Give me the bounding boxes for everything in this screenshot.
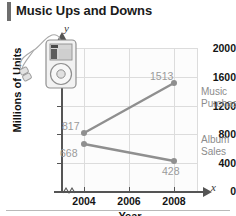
value-label-music-purchases-2008: 1513: [150, 70, 173, 82]
line-music-purchases: [84, 83, 174, 133]
x-tick-label-2008: 2008: [152, 195, 196, 207]
page-title: Music Ups and Downs: [16, 3, 152, 18]
x-tick-label-2004: 2004: [62, 195, 106, 207]
value-label-album-sales-2008: 428: [162, 165, 180, 177]
x-tick-label-2006: 2006: [107, 195, 151, 207]
series-label-music-purchases: Music Purchases: [201, 86, 236, 109]
title-accent-bar: [7, 2, 11, 21]
series-label-album-sales: Album Sales: [201, 134, 229, 157]
bottom-divider: [6, 210, 230, 211]
chart-title-bar: Music Ups and Downs: [0, 0, 236, 24]
series-label-music-purchases-line1: Music: [201, 86, 236, 98]
series-label-album-sales-line1: Album: [201, 134, 229, 146]
point-music-purchases-2004: [81, 130, 87, 136]
point-album-sales-2004: [81, 141, 87, 147]
chart-container: y x 2000 1600 1200 800 400 0 2004 2006 2…: [0, 24, 236, 196]
point-album-sales-2008: [171, 158, 177, 164]
line-album-sales: [84, 144, 174, 161]
series-label-album-sales-line2: Sales: [201, 146, 229, 158]
value-label-album-sales-2004: 668: [60, 147, 78, 159]
data-series-layer: [0, 24, 236, 196]
series-label-music-purchases-line2: Purchases: [201, 98, 236, 110]
value-label-music-purchases-2004: 817: [62, 120, 80, 132]
